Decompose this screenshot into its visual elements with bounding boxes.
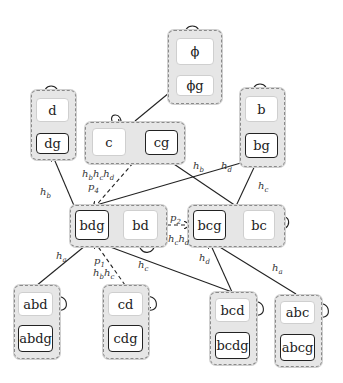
node-abcg[interactable]: abcg [280,334,315,361]
node-abc[interactable]: abc [280,301,315,324]
edge-bdg-dg [52,154,75,208]
node-bdg[interactable]: bdg [75,210,109,240]
label-abd-bdg: ha [56,250,67,264]
label-bcg-cg: hb [193,160,204,174]
node-bcdg[interactable]: bcdg [215,332,250,359]
node-phig[interactable]: ϕg [176,75,214,96]
node-d[interactable]: d [36,98,69,122]
label-bd-bcg-h: hchd [168,233,189,247]
node-abdg[interactable]: abdg [18,325,53,352]
node-b[interactable]: b [245,96,278,122]
node-dg[interactable]: dg [36,133,69,154]
node-bg[interactable]: bg [245,133,278,158]
edge-abc-bcg [210,241,296,294]
label-cg-bdg-p: p4 [88,181,99,195]
label-bcd-bcg: hd [199,252,210,266]
label-cg-bdg-h: hbhchd [82,168,114,182]
node-bcd[interactable]: bcd [215,298,250,322]
lattice-diagram: ϕ ϕg d dg c cg b bg bdg bd bcg bc abd ab… [0,0,343,383]
node-abd[interactable]: abd [18,292,53,316]
node-bcg[interactable]: bcg [193,210,226,240]
node-cdg[interactable]: cdg [108,325,143,352]
node-phi[interactable]: ϕ [176,38,214,65]
label-bdg-dg: hb [40,186,51,200]
label-bcd-bdg: hc [138,259,148,273]
label-bdg-bg: hd [221,160,232,174]
label-cd-bdg-h: hbhc [93,267,114,281]
node-bd[interactable]: bd [123,210,158,240]
node-cg[interactable]: cg [145,130,178,155]
node-c[interactable]: c [92,128,126,156]
label-bd-bcg-p: p2 [170,212,181,226]
node-bc[interactable]: bc [243,210,275,240]
label-abc-bcg: ha [272,262,283,276]
label-bcg-bg: hc [258,180,268,194]
edge-bdg-bg [86,158,258,208]
node-cd[interactable]: cd [108,292,143,316]
